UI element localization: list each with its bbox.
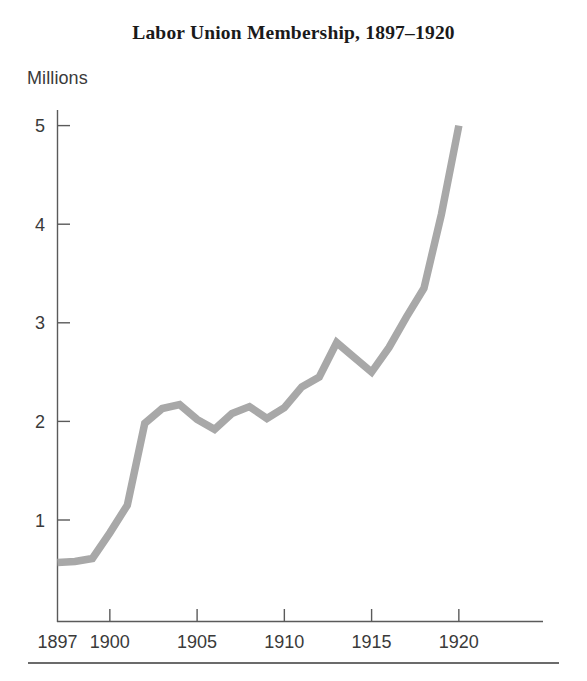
y-tick-label: 5	[35, 116, 45, 136]
y-tick-label-group: 12345	[35, 116, 45, 530]
y-tick-label: 4	[35, 215, 45, 235]
y-tick-mark-group	[58, 126, 70, 520]
x-tick-label: 1910	[264, 632, 304, 652]
x-tick-label: 1897	[37, 632, 77, 652]
y-tick-label: 1	[35, 511, 45, 531]
x-tick-label: 1920	[439, 632, 479, 652]
footer-rule	[28, 662, 559, 664]
line-chart-svg: 12345 189719001905191019151920	[0, 0, 587, 681]
x-tick-mark-group	[110, 609, 459, 621]
y-tick-label: 3	[35, 313, 45, 333]
x-tick-label: 1915	[352, 632, 392, 652]
x-tick-label: 1900	[90, 632, 130, 652]
y-tick-label: 2	[35, 412, 45, 432]
x-tick-label: 1905	[177, 632, 217, 652]
plot-area: 12345 189719001905191019151920	[0, 0, 587, 681]
chart-figure: Labor Union Membership, 1897–1920 Millio…	[0, 0, 587, 681]
data-series-line	[58, 126, 459, 563]
x-tick-label-group: 189719001905191019151920	[37, 632, 478, 652]
